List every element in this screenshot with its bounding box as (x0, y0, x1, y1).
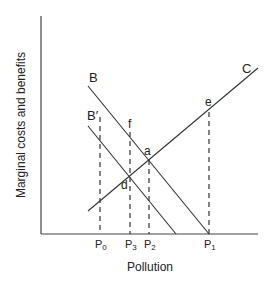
curve-b-prime (88, 126, 176, 234)
point-f: f (128, 117, 132, 131)
pollution-diagram: B B′ C e f a d P0 P3 P2 P1 Pollution Mar… (0, 0, 273, 286)
y-axis-label: Marginal costs and benefits (14, 52, 28, 198)
tick-p0: P0 (95, 238, 107, 252)
tick-p2: P2 (144, 238, 156, 252)
tick-p1: P1 (204, 238, 216, 252)
point-e: e (205, 95, 212, 109)
point-d: d (121, 178, 128, 192)
x-axis-label: Pollution (127, 260, 173, 274)
svg-text:P3: P3 (125, 238, 137, 252)
label-c: C (242, 61, 251, 76)
point-a: a (144, 144, 151, 158)
svg-text:P1: P1 (204, 238, 216, 252)
label-b: B (89, 70, 98, 85)
label-b-prime: B′ (87, 108, 99, 123)
tick-p3: P3 (125, 238, 137, 252)
svg-text:P2: P2 (144, 238, 156, 252)
svg-text:P0: P0 (95, 238, 107, 252)
